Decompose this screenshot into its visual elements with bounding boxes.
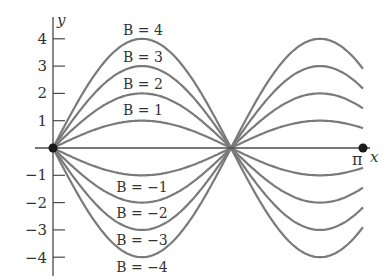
ytick-label-3: 3 (37, 57, 47, 75)
origin-point (49, 144, 58, 153)
ytick-label-2: 2 (37, 84, 47, 102)
curve-label-b3: B = 3 (123, 49, 163, 65)
curve-label-b2: B = 2 (123, 76, 163, 92)
curve-label-bm4: B = −4 (116, 259, 168, 275)
ytick-label-1: 1 (37, 112, 47, 130)
x-axis-label: x (370, 148, 379, 166)
pi-label: π (352, 150, 363, 169)
ytick-label-4: 4 (37, 30, 47, 48)
curve-label-bm2: B = −2 (116, 205, 168, 221)
curve-label-bm3: B = −3 (116, 232, 168, 248)
ytick-label-m2: −2 (25, 194, 47, 212)
y-axis-label: y (56, 11, 66, 29)
ytick-label-m4: −4 (25, 249, 47, 267)
pi-point (359, 144, 368, 153)
curve-label-bm1: B = −1 (116, 179, 168, 195)
curve-label-b1: B = 1 (123, 102, 163, 118)
chart: 4 3 2 1 −1 −2 −3 −4 y x π B = 4 B = 3 B … (0, 0, 392, 280)
ytick-label-m1: −1 (25, 166, 47, 184)
ytick-label-m3: −3 (25, 221, 47, 239)
curve-label-b4: B = 4 (123, 22, 163, 38)
